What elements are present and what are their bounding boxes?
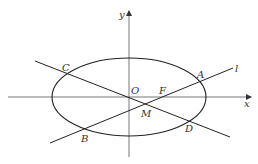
point-label-d: D [184,123,193,134]
ellipse-diagram: y x O A B C D F M l [0,0,258,164]
point-label-m: M [140,108,152,119]
origin-label: O [131,85,139,96]
point-label-a: A [196,69,204,80]
point-label-b: B [80,133,88,144]
point-label-f: F [158,85,167,96]
point-label-c: C [62,62,70,73]
y-axis-label: y [118,9,125,20]
line-l-label: l [235,63,238,74]
x-axis-label: x [244,98,250,109]
line-l [50,68,233,143]
